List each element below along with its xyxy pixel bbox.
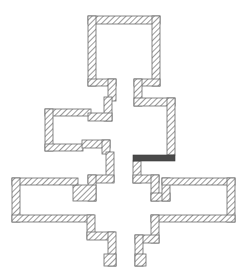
wall-big-right-top (162, 178, 235, 185)
walls-layer (12, 16, 235, 266)
wall-top-room-left (88, 16, 96, 86)
dark-door (133, 155, 175, 161)
wall-left-room-step (88, 113, 112, 121)
wall-left-connector-c (73, 185, 96, 201)
wall-right-corridor-wall (167, 98, 175, 155)
floor-plan-diagram (0, 0, 252, 277)
wall-left-room-bottom (45, 144, 83, 151)
wall-top-room-right (152, 16, 160, 86)
wall-big-right-bottom (151, 215, 235, 222)
doors-layer (133, 155, 175, 161)
wall-big-left-lower-d (104, 254, 116, 266)
wall-top-room-top (88, 16, 160, 24)
wall-big-left-top (12, 178, 78, 185)
wall-big-left-bottom (12, 215, 94, 222)
wall-big-right-lower-d (135, 254, 146, 266)
